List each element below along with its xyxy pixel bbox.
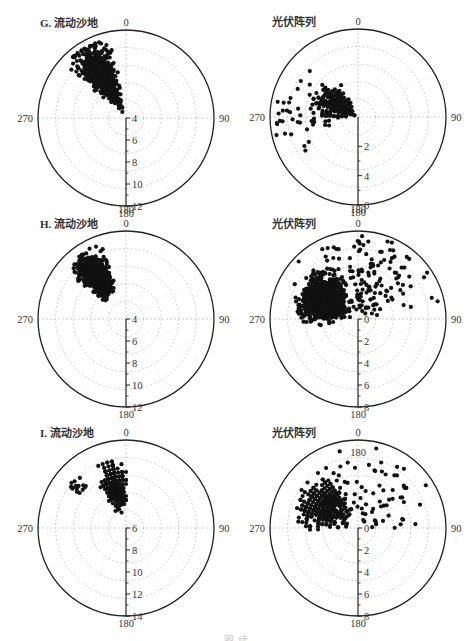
data-point bbox=[113, 82, 117, 86]
data-point bbox=[409, 305, 413, 309]
data-point bbox=[400, 517, 404, 521]
grid-spoke bbox=[282, 117, 358, 161]
data-point bbox=[303, 307, 307, 311]
data-point bbox=[369, 262, 373, 266]
radial-tick-label: 2 bbox=[364, 336, 369, 347]
data-point bbox=[344, 492, 348, 496]
data-point bbox=[106, 280, 110, 284]
data-point bbox=[303, 509, 307, 513]
data-point bbox=[332, 291, 336, 295]
data-point bbox=[95, 279, 99, 283]
data-point bbox=[119, 462, 123, 466]
data-point bbox=[364, 283, 368, 287]
data-point bbox=[110, 459, 114, 463]
data-point bbox=[331, 500, 335, 504]
data-point bbox=[104, 72, 108, 76]
data-point bbox=[71, 62, 75, 66]
data-point bbox=[364, 502, 368, 506]
data-point bbox=[338, 449, 342, 453]
data-point bbox=[335, 303, 339, 307]
data-point bbox=[382, 258, 386, 262]
data-point bbox=[314, 91, 318, 95]
data-point bbox=[331, 506, 335, 510]
data-point bbox=[314, 488, 318, 492]
data-point bbox=[101, 95, 105, 99]
data-point bbox=[312, 97, 316, 101]
data-point bbox=[309, 319, 313, 323]
data-point bbox=[296, 107, 300, 111]
data-point bbox=[373, 469, 377, 473]
data-point bbox=[398, 288, 402, 292]
data-point bbox=[300, 503, 304, 507]
data-point bbox=[104, 48, 108, 52]
data-point bbox=[331, 256, 335, 260]
data-point bbox=[327, 512, 331, 516]
data-point bbox=[327, 300, 331, 304]
data-point bbox=[83, 73, 87, 77]
data-point bbox=[277, 111, 281, 115]
data-point bbox=[324, 466, 328, 470]
data-point bbox=[374, 519, 378, 523]
data-point bbox=[325, 259, 329, 263]
data-point bbox=[407, 275, 411, 279]
data-point bbox=[402, 467, 406, 471]
polar-chart-I-left: 68101214090180270I. 流动沙地 bbox=[17, 426, 229, 629]
data-point bbox=[102, 294, 106, 298]
data-point bbox=[326, 284, 330, 288]
radial-tick-label: 0 bbox=[364, 523, 369, 534]
data-point bbox=[304, 276, 308, 280]
data-point bbox=[375, 313, 379, 317]
data-point bbox=[353, 282, 357, 286]
data-point bbox=[111, 463, 115, 467]
data-point bbox=[103, 487, 107, 491]
data-point bbox=[329, 296, 333, 300]
data-point bbox=[328, 306, 332, 310]
data-point bbox=[299, 316, 303, 320]
data-point bbox=[305, 513, 309, 517]
data-point bbox=[311, 111, 315, 115]
data-point bbox=[366, 240, 370, 244]
data-point bbox=[336, 525, 340, 529]
data-point bbox=[117, 495, 121, 499]
data-point bbox=[335, 103, 339, 107]
data-point bbox=[337, 511, 341, 515]
data-point bbox=[350, 110, 354, 114]
data-point bbox=[107, 499, 111, 503]
data-point bbox=[308, 506, 312, 510]
grid-spoke bbox=[82, 319, 126, 395]
data-point bbox=[93, 89, 97, 93]
data-point bbox=[371, 507, 375, 511]
data-point bbox=[317, 322, 321, 326]
data-point bbox=[334, 312, 338, 316]
data-point bbox=[83, 284, 87, 288]
grid-spoke bbox=[314, 117, 358, 193]
grid-spoke bbox=[358, 117, 434, 161]
data-point bbox=[339, 83, 343, 87]
data-point bbox=[309, 284, 313, 288]
data-point bbox=[348, 265, 352, 269]
data-point bbox=[313, 308, 317, 312]
data-point bbox=[81, 257, 85, 261]
data-point bbox=[78, 476, 82, 480]
data-point bbox=[77, 274, 81, 278]
data-point bbox=[76, 263, 80, 267]
data-point bbox=[311, 271, 315, 275]
grid-spoke bbox=[314, 319, 358, 395]
data-point bbox=[114, 479, 118, 483]
data-point bbox=[304, 524, 308, 528]
data-point bbox=[73, 479, 77, 483]
angle-label-90: 90 bbox=[451, 523, 462, 534]
data-point bbox=[386, 299, 390, 303]
data-point bbox=[84, 65, 88, 69]
data-point bbox=[116, 70, 120, 74]
data-point bbox=[302, 288, 306, 292]
data-point bbox=[332, 471, 336, 475]
angle-label-270: 270 bbox=[17, 523, 33, 534]
angle-label-270: 270 bbox=[249, 523, 265, 534]
data-point bbox=[338, 464, 342, 468]
data-point bbox=[380, 250, 384, 254]
data-point bbox=[331, 485, 335, 489]
data-point bbox=[113, 98, 117, 102]
data-point bbox=[328, 523, 332, 527]
angle-label-0: 0 bbox=[355, 427, 360, 438]
